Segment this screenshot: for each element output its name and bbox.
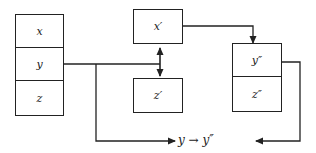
cell-z: z (15, 80, 64, 116)
box-zprime: z′ (133, 78, 183, 113)
cell-zdoubleprime-label: z″ (252, 88, 262, 101)
cell-ydoubleprime: y″ (232, 43, 282, 78)
result-label: y → y″ (178, 133, 214, 147)
cell-ydoubleprime-label: y″ (252, 54, 262, 67)
box-zprime-label: z′ (154, 89, 162, 102)
cell-zdoubleprime: z″ (232, 76, 282, 112)
box-xprime: x′ (133, 9, 183, 44)
box-xprime-label: x′ (154, 20, 163, 33)
cell-z-label: z (37, 92, 43, 105)
cell-x-label: x (36, 25, 42, 38)
line-xprime-to-ydoubleprime (183, 26, 253, 43)
cell-x: x (15, 14, 64, 49)
cell-y: y (15, 47, 64, 82)
cell-y-label: y (36, 58, 42, 71)
